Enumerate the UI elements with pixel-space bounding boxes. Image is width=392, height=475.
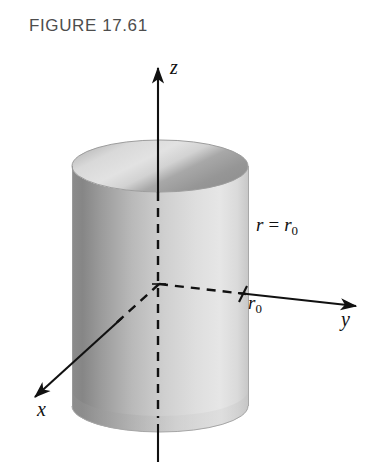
y-axis-label: y bbox=[341, 308, 350, 331]
equation-rhs-subscript: 0 bbox=[292, 223, 298, 238]
equation-operator: = bbox=[263, 214, 284, 235]
cylinder-diagram bbox=[0, 0, 392, 475]
r0-subscript: 0 bbox=[255, 301, 261, 316]
cylinder-shape bbox=[72, 140, 249, 432]
cylinder-lateral-surface bbox=[72, 166, 248, 432]
equation-rhs: r bbox=[284, 214, 291, 235]
z-axis-label: z bbox=[170, 56, 178, 79]
x-axis-label: x bbox=[37, 398, 46, 421]
surface-equation-label: r=r0 bbox=[256, 214, 298, 239]
r0-tick-label: r0 bbox=[248, 292, 262, 317]
cylinder-top-face bbox=[72, 140, 248, 192]
figure-container: FIGURE 17.61 bbox=[0, 0, 392, 475]
